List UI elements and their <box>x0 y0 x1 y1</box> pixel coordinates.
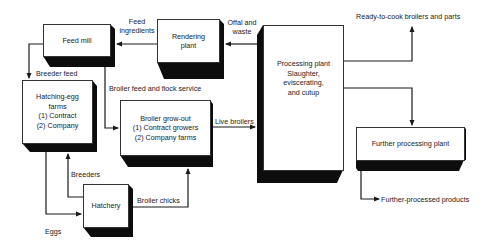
further-processing-shadow <box>356 160 464 171</box>
node-label: Rendering plant <box>172 32 205 51</box>
arrow-eggs <box>46 152 81 214</box>
edge-label-eggs: Eggs <box>45 228 61 236</box>
node-rendering-plant: Rendering plant <box>157 19 220 63</box>
edge-label-further-processed-products: Further-processed products <box>381 195 469 204</box>
node-hatching-egg-farms: Hatching-egg farms (1) Contract (2) Comp… <box>22 80 93 144</box>
arrow-broiler-feed <box>105 67 118 128</box>
edge-label-broiler-feed: Broiler feed and flock service <box>109 84 201 93</box>
node-label: Broiler grow-out (1) Contract growers (2… <box>133 114 199 143</box>
edge-label-ready-to-cook: Ready-to-cook broilers and parts <box>356 12 460 21</box>
broiler-growout-shadow <box>120 155 213 167</box>
node-broiler-growout: Broiler grow-out (1) Contract growers (2… <box>120 100 211 156</box>
edge-label-feed-ingredients: Feed ingredients <box>117 17 157 35</box>
node-label: Feed mill <box>62 36 91 46</box>
node-label: Hatchery <box>92 201 121 211</box>
node-processing-plant: Processing plant Slaughter, eviscerating… <box>263 25 344 171</box>
feed-mill-shadow <box>43 56 115 67</box>
edge-label-broiler-chicks: Broiler chicks <box>137 196 180 205</box>
arrow-ready-to-cook <box>343 27 412 61</box>
node-label: Processing plant Slaughter, eviscerating… <box>277 59 330 97</box>
node-feed-mill: Feed mill <box>43 24 111 57</box>
node-label: Hatching-egg farms (1) Contract (2) Comp… <box>36 92 79 130</box>
hatchery-shadow <box>83 227 133 237</box>
node-label: Further processing plant <box>372 139 450 149</box>
arrow-further-processed-products <box>361 171 379 199</box>
node-hatchery: Hatchery <box>83 184 129 228</box>
edge-label-live-broilers: Live broilers <box>215 117 254 126</box>
edge-label-offal-waste: Offal and waste <box>222 18 262 36</box>
node-further-processing: Further processing plant <box>356 127 465 161</box>
edge-label-breeders: Breeders <box>71 170 100 179</box>
rendering-plant-shadow <box>157 62 224 79</box>
arrow-to-further-processing <box>343 88 412 125</box>
hatching-farms-shadow <box>22 143 97 152</box>
edge-label-breeder-feed: Breeder feed <box>36 69 78 78</box>
